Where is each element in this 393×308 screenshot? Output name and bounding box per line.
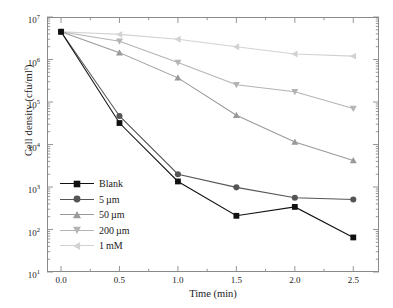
legend-label: 5 µm (94, 194, 120, 205)
legend-label: Blank (94, 178, 123, 189)
y-tick-label: 102 (10, 225, 40, 238)
legend-item: 1 mM (60, 238, 165, 254)
x-tick-label: 0.0 (41, 275, 81, 285)
legend: Blank5 µm50 µm200 µm1 mM (60, 176, 165, 254)
legend-key (60, 239, 94, 253)
x-axis-title: Time (min) (47, 288, 379, 299)
figure: Cell density (cfu/mll) 10110210310410510… (0, 0, 393, 308)
x-tick-label: 1.5 (216, 275, 256, 285)
legend-item: 50 µm (60, 207, 165, 223)
y-axis-tick-labels: 101102103104105106107 (7, 0, 40, 308)
y-tick-label: 103 (10, 182, 40, 195)
legend-key (60, 177, 94, 191)
data-point (73, 227, 81, 234)
legend-marker-triangle-down-icon (69, 223, 85, 237)
data-point (74, 180, 81, 187)
legend-item: Blank (60, 176, 165, 192)
legend-key (60, 192, 94, 206)
legend-key (60, 223, 94, 237)
x-axis-title-text: Time (min) (189, 288, 237, 299)
legend-marker-triangle-up-icon (69, 208, 85, 222)
data-point (73, 211, 81, 218)
legend-label: 1 mM (94, 240, 123, 251)
y-tick-label: 106 (10, 55, 40, 68)
legend-marker-triangle-left-icon (69, 239, 85, 253)
legend-item: 5 µm (60, 192, 165, 208)
x-tick-label: 1.0 (158, 275, 198, 285)
legend-marker-circle-icon (69, 192, 85, 206)
legend-item: 200 µm (60, 223, 165, 239)
y-tick-label: 105 (10, 97, 40, 110)
x-tick-label: 2.5 (333, 275, 373, 285)
legend-key (60, 208, 94, 222)
x-tick-label: 2.0 (275, 275, 315, 285)
data-point (73, 242, 80, 250)
legend-label: 200 µm (94, 225, 130, 236)
y-tick-label: 107 (10, 12, 40, 25)
x-tick-label: 0.5 (99, 275, 139, 285)
legend-label: 50 µm (94, 209, 125, 220)
x-axis-tick-labels: 0.00.51.01.52.02.5 (0, 275, 393, 289)
data-point (74, 196, 81, 203)
y-tick-label: 104 (10, 140, 40, 153)
legend-marker-square-icon (69, 177, 85, 191)
